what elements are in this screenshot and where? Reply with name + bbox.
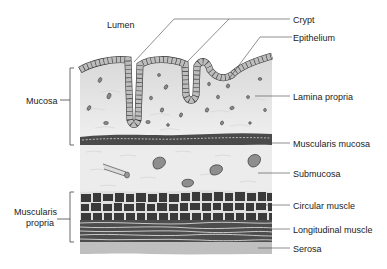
muscularis-propria-bracket — [70, 192, 74, 242]
label-muscularis-mucosa: Muscularis mucosa — [293, 139, 370, 149]
label-longitudinal-muscle: Longitudinal muscle — [293, 225, 373, 235]
label-lamina-propria: Lamina propria — [293, 92, 353, 102]
label-serosa: Serosa — [293, 244, 322, 254]
gut-wall-diagram: Lumen Crypt Epithelium Lamina propria Mu… — [0, 0, 387, 269]
label-muscularis-propria-line1: Muscularis — [14, 207, 58, 217]
label-epithelium: Epithelium — [293, 33, 335, 43]
longitudinal-muscle-layer — [80, 220, 272, 242]
circular-muscle-layer — [80, 190, 272, 220]
label-submucosa: Submucosa — [293, 169, 341, 179]
label-mucosa: Mucosa — [26, 96, 58, 106]
submucosa-layer — [80, 145, 272, 192]
mucosa-bracket — [70, 68, 74, 145]
serosa-layer — [80, 242, 272, 254]
label-muscularis-propria-line2: propria — [26, 218, 54, 228]
label-lumen: Lumen — [107, 20, 135, 30]
label-crypt: Crypt — [293, 15, 315, 25]
label-circular-muscle: Circular muscle — [293, 201, 355, 211]
